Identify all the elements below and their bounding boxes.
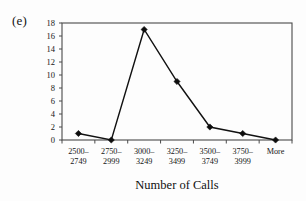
figure-panel: (e) 024681012141618 2500–27492750–299930… — [0, 0, 306, 201]
svg-text:4: 4 — [51, 109, 56, 119]
svg-text:2750–: 2750– — [101, 147, 122, 156]
svg-text:8: 8 — [51, 83, 55, 93]
x-axis-tick-labels: 2500–27492750–29993000–32493250–34993500… — [68, 147, 285, 166]
svg-text:2: 2 — [51, 122, 55, 132]
svg-text:3999: 3999 — [235, 157, 251, 166]
svg-text:3500–: 3500– — [200, 147, 221, 156]
svg-text:3499: 3499 — [169, 157, 185, 166]
svg-text:12: 12 — [47, 57, 56, 67]
chart-plot-area: 024681012141618 2500–27492750–29993000–3… — [0, 0, 306, 201]
svg-text:2999: 2999 — [103, 157, 119, 166]
svg-text:More: More — [267, 147, 285, 156]
svg-text:Number of Calls: Number of Calls — [135, 178, 218, 192]
svg-text:0: 0 — [51, 135, 55, 145]
y-axis-tick-labels: 024681012141618 — [47, 18, 56, 145]
svg-text:6: 6 — [51, 96, 55, 106]
svg-text:2749: 2749 — [70, 157, 86, 166]
svg-text:3250–: 3250– — [167, 147, 188, 156]
line-chart: 024681012141618 2500–27492750–29993000–3… — [0, 0, 306, 201]
svg-text:3750–: 3750– — [232, 147, 253, 156]
svg-text:3000–: 3000– — [134, 147, 155, 156]
svg-text:10: 10 — [47, 70, 56, 80]
svg-text:3749: 3749 — [202, 157, 218, 166]
svg-text:14: 14 — [47, 44, 56, 54]
svg-text:3249: 3249 — [136, 157, 152, 166]
svg-text:18: 18 — [47, 18, 56, 28]
svg-text:16: 16 — [47, 31, 56, 41]
svg-text:2500–: 2500– — [68, 147, 89, 156]
x-axis-title: Number of Calls — [135, 178, 218, 192]
data-series-markers — [75, 26, 278, 143]
